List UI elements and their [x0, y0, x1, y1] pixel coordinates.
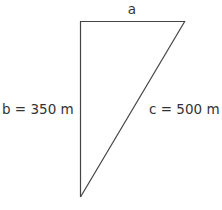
- label-b: b = 350 m: [2, 101, 74, 117]
- triangle-diagram: a b = 350 m c = 500 m: [0, 0, 222, 210]
- label-c: c = 500 m: [149, 101, 220, 117]
- label-a: a: [128, 1, 136, 17]
